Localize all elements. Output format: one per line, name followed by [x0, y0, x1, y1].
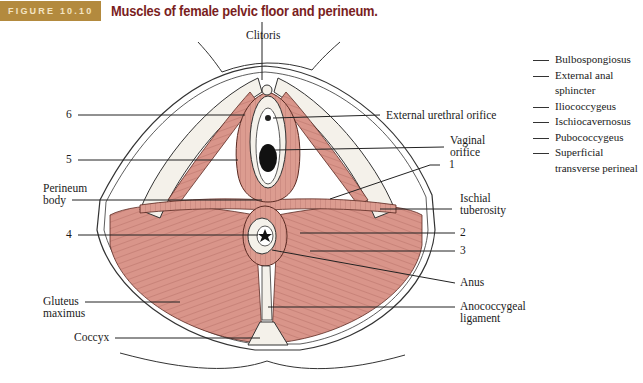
label-external-urethral-orifice: External urethral orifice [386, 109, 496, 122]
label-4: 4 [66, 228, 72, 241]
legend-item-label: Pubococcygeus [555, 130, 623, 146]
legend-item: Iliococcygeus [533, 99, 638, 115]
blank-line-marker [533, 130, 549, 139]
label-coccyx: Coccyx [74, 331, 109, 344]
legend-item: Bulbospongiosus [533, 52, 638, 68]
urethral-orifice [265, 115, 271, 121]
label-clitoris: Clitoris [246, 29, 281, 42]
gluteus-maximus-right [272, 206, 422, 342]
legend-item: Pubococcygeus [533, 130, 638, 146]
blank-line-marker [533, 52, 549, 61]
legend-item: External anal sphincter [533, 68, 638, 99]
label-5: 5 [66, 153, 72, 166]
legend-item: Ischiocavernosus [533, 114, 638, 130]
muscle-legend: Bulbospongiosus External anal sphincter … [533, 52, 638, 176]
label-gluteus-maximus-line2: maximus [43, 307, 85, 320]
label-perineum-body-line2: body [43, 194, 66, 207]
thigh-outline-right [312, 42, 340, 70]
label-anus: Anus [460, 276, 484, 289]
anococcygeal-ligament [262, 266, 272, 320]
label-anococcygeal-ligament-line2: ligament [460, 312, 500, 325]
label-ischial-tuberosity-line2: tuberosity [460, 204, 506, 217]
legend-item-label: Bulbospongiosus [555, 52, 631, 68]
legend-item-label: Ischiocavernosus [555, 114, 631, 130]
legend-item-label: Superficial transverse perineal [555, 145, 638, 176]
clitoris-glans [262, 85, 272, 95]
legend-item-label: External anal sphincter [555, 68, 613, 99]
gluteus-maximus-left [110, 206, 262, 342]
legend-item: Superficial transverse perineal [533, 145, 638, 176]
vaginal-orifice [259, 144, 277, 172]
blank-line-marker [533, 114, 549, 123]
blank-line-marker [533, 99, 549, 108]
thigh-outline-left [198, 42, 222, 72]
label-6: 6 [66, 108, 72, 121]
label-3: 3 [460, 244, 466, 257]
blank-line-marker [533, 68, 549, 77]
label-1: 1 [449, 158, 455, 171]
blank-line-marker [533, 145, 549, 154]
legend-item-label: Iliococcygeus [555, 99, 616, 115]
label-2: 2 [460, 226, 466, 239]
